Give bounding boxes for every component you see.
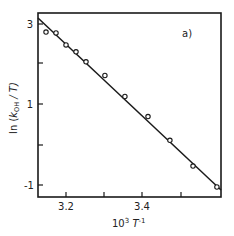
y-tick-label-minus1: -1 (24, 180, 34, 191)
data-point (54, 31, 58, 35)
y-axis-label: ln (kOH / T) (8, 82, 21, 134)
data-point (44, 30, 48, 34)
data-point (64, 43, 68, 47)
data-points (44, 30, 219, 189)
data-point (103, 73, 107, 77)
data-point (146, 114, 150, 118)
data-point (84, 60, 88, 64)
chart: 3 1 -1 3.2 3.4 103 T-1 ln (kOH / T) a) (0, 0, 234, 236)
data-point (191, 164, 195, 168)
y-tick-label-1: 1 (27, 99, 33, 110)
y-tick-label-3: 3 (27, 19, 33, 30)
panel-label: a) (182, 28, 192, 39)
x-tick-label-3-2: 3.2 (58, 201, 74, 212)
data-point (215, 185, 219, 189)
x-tick-label-3-4: 3.4 (134, 201, 150, 212)
data-point (74, 50, 78, 54)
data-point (168, 138, 172, 142)
x-axis-label: 103 T-1 (112, 217, 145, 229)
data-point (123, 94, 127, 98)
